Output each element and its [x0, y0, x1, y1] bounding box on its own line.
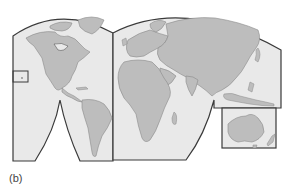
- tasmania: [253, 145, 257, 148]
- interrupted-world-map: [0, 0, 306, 190]
- hawaii-islands: [21, 77, 23, 79]
- figure-label: (b): [9, 172, 22, 184]
